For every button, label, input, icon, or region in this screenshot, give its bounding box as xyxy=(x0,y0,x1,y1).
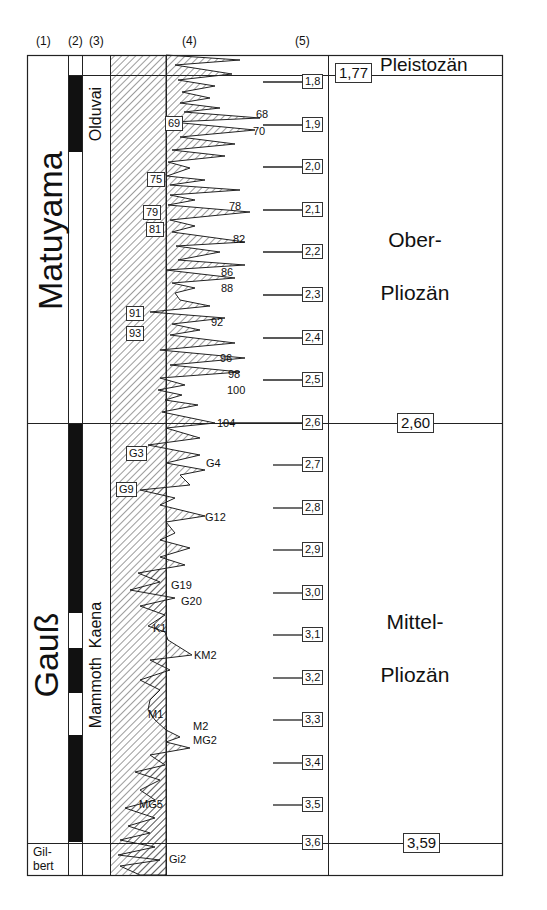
stage-M2: M2 xyxy=(193,720,208,732)
stage-88: 88 xyxy=(221,282,233,294)
stage-91: 91 xyxy=(126,306,144,321)
stage-G20: G20 xyxy=(181,595,202,607)
stratigraphy-diagram-graphics xyxy=(0,0,547,910)
stage-82: 82 xyxy=(233,233,245,245)
stage-93: 93 xyxy=(126,326,144,341)
age-tick-2-3: 2,3 xyxy=(302,287,323,302)
boundary-1-77: 1,77 xyxy=(335,63,372,83)
stage-Gi2: Gi2 xyxy=(169,853,186,865)
stage-K1: K1 xyxy=(153,622,166,634)
stage-96: 96 xyxy=(220,352,232,364)
epoch-ober-pliozaen: Pliozän xyxy=(328,281,502,305)
epoch-mittel: Mittel- xyxy=(328,610,502,634)
stage-79: 79 xyxy=(143,205,161,220)
stage-68: 68 xyxy=(256,108,268,120)
gilbert-line1: Gil- xyxy=(33,845,54,859)
chron-gauss-label: Gauß xyxy=(26,605,66,705)
age-tick-2-8: 2,8 xyxy=(302,500,323,515)
stage-75: 75 xyxy=(147,172,165,187)
boundary-3-59: 3,59 xyxy=(403,833,440,853)
stage-100: 100 xyxy=(227,384,245,396)
stage-G3: G3 xyxy=(126,446,147,461)
stage-98: 98 xyxy=(228,368,240,380)
chron-gilbert-label: Gil- bert xyxy=(33,845,54,873)
age-tick-3-5: 3,5 xyxy=(302,797,323,812)
age-tick-3-1: 3,1 xyxy=(302,627,323,642)
stage-G12: G12 xyxy=(205,511,226,523)
gilbert-line2: bert xyxy=(33,859,54,873)
stage-104: 104 xyxy=(217,417,235,429)
age-tick-1-9: 1,9 xyxy=(302,117,323,132)
age-tick-3-0: 3,0 xyxy=(302,585,323,600)
age-tick-2-5: 2,5 xyxy=(302,372,323,387)
age-tick-3-2: 3,2 xyxy=(302,670,323,685)
stage-MG2: MG2 xyxy=(193,734,217,746)
age-tick-2-0: 2,0 xyxy=(302,159,323,174)
stage-M1: M1 xyxy=(148,708,163,720)
age-tick-3-3: 3,3 xyxy=(302,712,323,727)
age-tick-2-7: 2,7 xyxy=(302,457,323,472)
stage-78: 78 xyxy=(229,200,241,212)
stage-G19: G19 xyxy=(171,579,192,591)
age-tick-2-9: 2,9 xyxy=(302,542,323,557)
stage-70: 70 xyxy=(253,125,265,137)
chron-matuyama-label: Matuyama xyxy=(30,170,70,310)
age-tick-2-2: 2,2 xyxy=(302,244,323,259)
stage-81: 81 xyxy=(146,222,164,237)
age-tick-2-4: 2,4 xyxy=(302,330,323,345)
subchron-olduvai-label: Olduvai xyxy=(86,74,106,154)
epoch-ober: Ober- xyxy=(328,228,502,252)
stage-86: 86 xyxy=(221,266,233,278)
age-tick-3-6: 3,6 xyxy=(302,835,323,850)
age-tick-2-1: 2,1 xyxy=(302,202,323,217)
stage-G4: G4 xyxy=(206,457,221,469)
age-tick-1-8: 1,8 xyxy=(302,74,323,89)
subchron-mammoth-kaena-label: Mammoth Kaena xyxy=(86,595,106,735)
age-tick-2-6: 2,6 xyxy=(302,415,323,430)
epoch-pleistozaen: Pleistozän xyxy=(380,55,468,75)
boundary-2-60: 2,60 xyxy=(397,413,434,433)
age-tick-3-4: 3,4 xyxy=(302,755,323,770)
stage-KM2: KM2 xyxy=(194,649,217,661)
stage-G9: G9 xyxy=(116,482,137,497)
stage-92: 92 xyxy=(211,316,223,328)
stage-69: 69 xyxy=(165,116,183,131)
epoch-mittel-pliozaen: Pliozän xyxy=(328,663,502,687)
stage-MG5: MG5 xyxy=(139,798,163,810)
